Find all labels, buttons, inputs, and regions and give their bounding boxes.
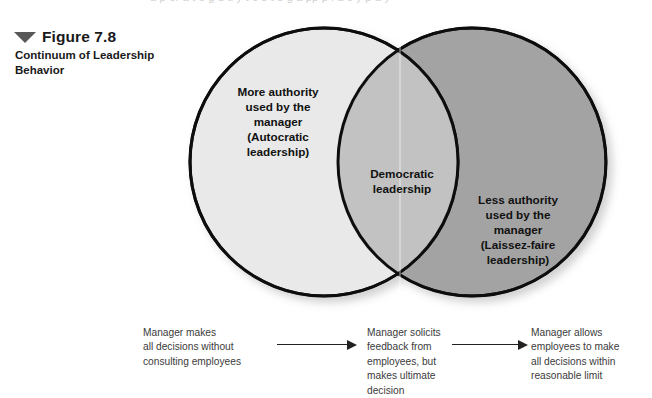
arrow-line [452, 344, 520, 345]
venn-diagram: More authority used by the manager (Auto… [178, 16, 623, 316]
cropped-body-text-fragment: a p er a t e g u ti y t e s t e g a pp p… [150, 0, 610, 3]
arrow-right-icon-2 [452, 339, 528, 350]
figure-label-block: Figure 7.8 Continuum of Leadership Behav… [14, 28, 189, 77]
venn-label-less-authority: Less authority used by the manager (Lais… [442, 192, 594, 267]
arrow-head [347, 340, 357, 350]
figure-title-row: Figure 7.8 [14, 28, 189, 46]
continuum-step-2-text: Manager solicits feedback from employees… [367, 326, 487, 398]
figure-subtitle: Continuum of Leadership Behavior [15, 48, 189, 77]
triangle-down-icon [14, 32, 36, 43]
arrow-line [277, 344, 349, 345]
continuum-caption-row: Manager makes all decisions without cons… [0, 318, 652, 392]
arrow-right-icon-1 [277, 339, 357, 350]
figure-number-title: Figure 7.8 [42, 28, 116, 46]
continuum-step-1-text: Manager makes all decisions without cons… [143, 326, 278, 369]
continuum-step-3-text: Manager allows employees to make all dec… [531, 326, 652, 384]
arrow-head [518, 340, 528, 350]
venn-label-more-authority: More authority used by the manager (Auto… [202, 84, 354, 159]
